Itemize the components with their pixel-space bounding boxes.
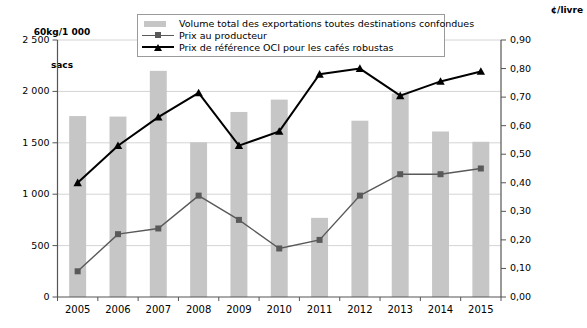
bar-2011 <box>311 218 328 297</box>
chart-legend: Volume total des exportations toutes des… <box>137 14 445 57</box>
x-axis-tick-2010: 2010 <box>259 305 299 315</box>
right-axis-tick-0-40: 0,40 <box>510 178 531 188</box>
x-axis-tick-2013: 2013 <box>380 305 420 315</box>
legend-label-producer-price: Prix au producteur <box>179 30 267 41</box>
x-axis-tick-2009: 2009 <box>219 305 259 315</box>
right-axis-tick-0-30: 0,30 <box>510 206 531 216</box>
x-axis-tick-2014: 2014 <box>421 305 461 315</box>
bar-2013 <box>392 93 409 297</box>
legend-item-oci-price: Prix de référence OCI pour les cafés rob… <box>142 41 440 53</box>
x-axis-tick-2005: 2005 <box>58 305 98 315</box>
right-axis-tick-0-00: 0,00 <box>510 292 531 302</box>
right-axis-tick-0-20: 0,20 <box>510 235 531 245</box>
chart-container: 60kg/1 000 sacs ¢/livre 05001 0001 5002 … <box>0 0 587 328</box>
bar-2012 <box>351 121 368 297</box>
left-axis-tick-2500: 2 500 <box>0 35 50 45</box>
right-axis-tick-0-10: 0,10 <box>510 263 531 273</box>
x-axis-tick-2015: 2015 <box>461 305 501 315</box>
bar-2009 <box>230 112 247 297</box>
right-axis-tick-0-50: 0,50 <box>510 149 531 159</box>
marker-producer-2008 <box>196 193 202 199</box>
x-axis-tick-2006: 2006 <box>98 305 138 315</box>
marker-producer-2012 <box>357 193 363 199</box>
left-axis-tick-1500: 1 500 <box>0 138 50 148</box>
legend-line-square-icon <box>142 30 176 41</box>
x-axis-tick-2011: 2011 <box>300 305 340 315</box>
bar-2007 <box>150 71 167 297</box>
bar-2008 <box>190 142 207 297</box>
bars-group <box>69 71 489 297</box>
x-axis-tick-2007: 2007 <box>138 305 178 315</box>
marker-producer-2006 <box>115 231 121 237</box>
right-axis-tick-0-60: 0,60 <box>510 121 531 131</box>
legend-label-oci-price: Prix de référence OCI pour les cafés rob… <box>179 42 393 53</box>
x-axis-tick-2008: 2008 <box>179 305 219 315</box>
right-axis-tick-0-80: 0,80 <box>510 64 531 74</box>
marker-oci-2015 <box>477 67 485 75</box>
marker-oci-2008 <box>194 89 202 97</box>
left-axis-tick-0: 0 <box>0 292 50 302</box>
marker-producer-2015 <box>478 166 484 172</box>
marker-producer-2014 <box>438 171 444 177</box>
legend-line-triangle-icon <box>142 42 176 53</box>
left-axis-tick-1000: 1 000 <box>0 189 50 199</box>
left-axis-tick-2000: 2 000 <box>0 86 50 96</box>
bar-2014 <box>432 131 449 297</box>
bar-2015 <box>472 142 489 297</box>
marker-producer-2011 <box>317 237 323 243</box>
legend-label-volume: Volume total des exportations toutes des… <box>179 18 474 29</box>
marker-producer-2013 <box>397 171 403 177</box>
legend-swatch-icon <box>142 18 176 29</box>
left-axis-tick-500: 500 <box>0 241 50 251</box>
legend-item-volume: Volume total des exportations toutes des… <box>142 17 440 29</box>
x-axis-tick-2012: 2012 <box>340 305 380 315</box>
marker-producer-2009 <box>236 217 242 223</box>
right-axis-tick-0-70: 0,70 <box>510 92 531 102</box>
marker-producer-2005 <box>75 268 81 274</box>
marker-producer-2007 <box>155 225 161 231</box>
marker-producer-2010 <box>276 245 282 251</box>
right-axis-tick-0-90: 0,90 <box>510 35 531 45</box>
legend-item-producer-price: Prix au producteur <box>142 29 440 41</box>
